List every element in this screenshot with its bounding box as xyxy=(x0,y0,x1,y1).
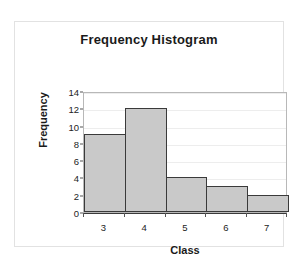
gridline xyxy=(84,93,286,94)
y-tick-label: 14 xyxy=(55,87,79,98)
y-tick-label: 0 xyxy=(55,208,79,219)
gridline xyxy=(84,110,286,111)
x-tick-label: 4 xyxy=(142,222,147,233)
y-tick-label: 12 xyxy=(55,104,79,115)
gridline xyxy=(84,128,286,129)
y-tick-label: 10 xyxy=(55,121,79,132)
histogram-bar xyxy=(166,177,208,212)
chart-title: Frequency Histogram xyxy=(15,32,283,47)
x-tick-label: 5 xyxy=(182,222,187,233)
chart-frame: Frequency Histogram Frequency 0246810121… xyxy=(14,21,284,247)
histogram-bar xyxy=(247,195,289,212)
x-tick-mark xyxy=(205,213,206,217)
x-tick-mark xyxy=(165,213,166,217)
plot-inner xyxy=(84,93,286,212)
x-tick-mark xyxy=(83,213,84,217)
y-tick-label: 6 xyxy=(55,156,79,167)
y-axis-title: Frequency xyxy=(37,75,49,165)
x-tick-label: 7 xyxy=(264,222,269,233)
histogram-bar xyxy=(84,134,126,212)
y-tick-label: 8 xyxy=(55,138,79,149)
y-tick-label: 4 xyxy=(55,173,79,184)
x-axis-tick-labels: 34567 xyxy=(83,213,287,239)
histogram-bar xyxy=(125,108,167,212)
x-axis-title: Class xyxy=(83,244,287,256)
x-tick-mark xyxy=(124,213,125,217)
y-axis-tick-labels: 02468101214 xyxy=(53,92,79,213)
y-tick-label: 2 xyxy=(55,190,79,201)
plot-area xyxy=(83,92,287,213)
x-tick-mark xyxy=(286,213,287,217)
x-tick-mark xyxy=(246,213,247,217)
histogram-bar xyxy=(206,186,248,212)
x-tick-label: 3 xyxy=(101,222,106,233)
x-tick-label: 6 xyxy=(223,222,228,233)
